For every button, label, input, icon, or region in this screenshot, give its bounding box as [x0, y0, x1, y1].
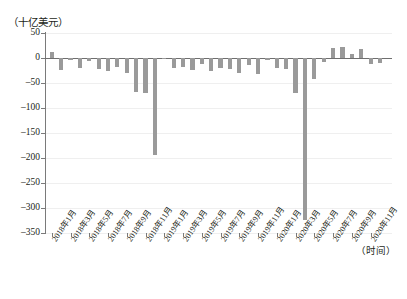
bar	[350, 54, 354, 58]
bar	[50, 52, 54, 58]
bar	[209, 58, 213, 71]
bar	[218, 58, 222, 68]
y-axis-tick-label: –250	[6, 178, 40, 188]
y-axis-tick-label-wrap: –300	[0, 203, 40, 213]
bar	[115, 58, 119, 67]
y-axis-tick-label-wrap: –50	[0, 78, 40, 88]
y-axis-tick-label: –200	[6, 153, 40, 163]
bar	[322, 58, 326, 62]
y-axis-tick-label: –50	[6, 78, 40, 88]
bar	[153, 58, 157, 155]
y-axis-tick-label-wrap: 0	[0, 53, 40, 63]
bar	[162, 58, 166, 59]
bar	[312, 58, 316, 79]
bar	[359, 49, 363, 58]
y-axis-tick-label-wrap: –350	[0, 228, 40, 238]
bar	[59, 58, 63, 70]
y-axis-tick-label-wrap: –100	[0, 103, 40, 113]
bar	[284, 58, 288, 69]
bar	[97, 58, 101, 69]
bar	[143, 58, 147, 93]
y-axis-tick-label-wrap: –200	[0, 153, 40, 163]
bar	[275, 58, 279, 68]
y-axis-tick-label-wrap: –150	[0, 128, 40, 138]
x-axis-unit-label: （时间）	[356, 243, 396, 257]
bar	[200, 58, 204, 64]
bar	[134, 58, 138, 92]
y-axis-tick-label: –350	[6, 228, 40, 238]
bar-chart-figure: （十亿美元） （时间） 500–50–100–150–200–250–300–3…	[0, 0, 407, 299]
bar	[181, 58, 185, 67]
bar	[228, 58, 232, 69]
plot-area	[45, 33, 392, 233]
bar	[340, 47, 344, 58]
bar	[265, 58, 269, 60]
y-axis-tick-label: 0	[6, 53, 40, 63]
bar	[125, 58, 129, 73]
y-axis-tick-label: –100	[6, 103, 40, 113]
bar	[293, 58, 297, 93]
y-axis-tick-label: 50	[6, 28, 40, 38]
y-axis-tick-label: –150	[6, 128, 40, 138]
bar	[68, 58, 72, 60]
bar	[78, 58, 82, 68]
bar	[172, 58, 176, 68]
y-axis-tick-label: –300	[6, 203, 40, 213]
bar	[190, 58, 194, 70]
bar	[331, 48, 335, 58]
y-axis-tick	[41, 233, 46, 234]
bar	[247, 58, 251, 65]
y-axis-tick-label-wrap: 50	[0, 28, 40, 38]
bar	[256, 58, 260, 74]
bar	[237, 58, 241, 73]
bar	[378, 58, 382, 63]
bar	[106, 58, 110, 71]
bar	[369, 58, 373, 64]
bar	[87, 58, 91, 61]
y-axis-tick-label-wrap: –250	[0, 178, 40, 188]
bar	[303, 58, 307, 220]
